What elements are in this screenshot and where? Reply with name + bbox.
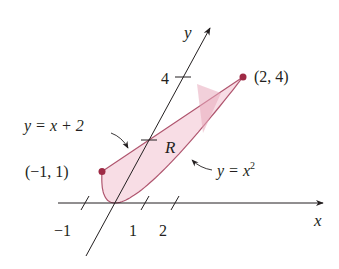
- x-tick-label-2: 2: [159, 222, 167, 239]
- y-axis: [86, 28, 210, 256]
- lower-curve-label: y = x2: [215, 160, 255, 180]
- lower-curve-label-base: y = x: [215, 162, 250, 180]
- region-label: R: [164, 138, 176, 157]
- point-neg1-1: [99, 168, 106, 175]
- upper-curve-label: y = x + 2: [22, 117, 84, 135]
- point-label-2-4: (2, 4): [254, 68, 289, 86]
- upper-curve-pointer-arrow: [111, 133, 128, 148]
- region-diagram: y x −1 1 2 4 (2, 4) (−1, 1) y = x + 2 R …: [0, 0, 339, 269]
- point-2-4: [240, 74, 247, 81]
- x-axis-label: x: [313, 211, 322, 230]
- y-tick-label-4: 4: [161, 70, 169, 87]
- x-tick-label-1: 1: [129, 222, 137, 239]
- point-label-neg1-1: (−1, 1): [25, 163, 69, 181]
- lower-curve-pointer-arrow: [192, 160, 212, 170]
- y-axis-label: y: [182, 23, 192, 42]
- x-tick-label-neg1: −1: [54, 222, 71, 239]
- lower-curve-label-exp: 2: [250, 160, 255, 171]
